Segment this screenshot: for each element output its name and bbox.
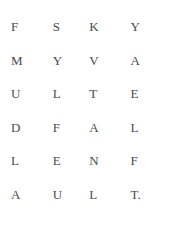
table-row: M Y V A xyxy=(0,44,169,78)
grid-cell-r4c0: L xyxy=(0,154,49,167)
grid-cell-r0c1: S xyxy=(49,20,86,33)
grid-cell-r5c3: T. xyxy=(125,188,169,201)
table-row: L E N F xyxy=(0,144,169,178)
grid-cell-r5c0: A xyxy=(0,188,49,201)
table-row: F S K Y xyxy=(0,10,169,44)
grid-cell-r3c0: D xyxy=(0,121,49,134)
grid-cell-r2c1: L xyxy=(49,87,86,100)
letter-grid: F S K Y M Y V A U L T E D F A L L E N F … xyxy=(0,0,169,236)
grid-cell-r2c0: U xyxy=(0,87,49,100)
grid-cell-r2c2: T xyxy=(85,87,125,100)
grid-cell-r3c3: L xyxy=(125,121,169,134)
grid-cell-r1c3: A xyxy=(125,54,169,67)
table-row: D F A L xyxy=(0,111,169,145)
grid-cell-r0c0: F xyxy=(0,20,49,33)
grid-cell-r1c2: V xyxy=(85,54,125,67)
grid-cell-r2c3: E xyxy=(125,87,169,100)
grid-cell-r1c0: M xyxy=(0,54,49,67)
grid-cell-r0c2: K xyxy=(85,20,125,33)
grid-cell-r4c1: E xyxy=(49,154,86,167)
table-row: A U L T. xyxy=(0,178,169,212)
grid-cell-r3c2: A xyxy=(85,121,125,134)
grid-cell-r5c1: U xyxy=(49,188,86,201)
table-row: U L T E xyxy=(0,77,169,111)
grid-cell-r1c1: Y xyxy=(49,54,86,67)
grid-cell-r3c1: F xyxy=(49,121,86,134)
grid-cell-r5c2: L xyxy=(85,188,125,201)
grid-cell-r4c3: F xyxy=(125,154,169,167)
grid-cell-r0c3: Y xyxy=(125,20,169,33)
grid-cell-r4c2: N xyxy=(85,154,125,167)
